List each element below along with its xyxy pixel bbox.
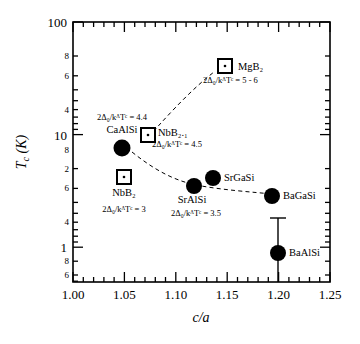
marker-filled-circle <box>186 178 202 194</box>
x-tick-label: 1.25 <box>319 287 342 302</box>
x-tick-label: 1.15 <box>216 287 239 302</box>
data-point-SrGaSi[interactable]: SrGaSi <box>205 170 254 186</box>
y-tick-labels: 100 10 1 8 6 4 2 8 6 4 8 6 <box>48 15 70 280</box>
gap-ratio-label: 2Δ₀/kᴬTᶜ = 3 <box>102 204 146 214</box>
gap-ratio-label: 2Δ₀/kᴬTᶜ = 5 - 6 <box>203 75 258 85</box>
data-point-MgB2[interactable]: MgB₂ 2Δ₀/kᴬTᶜ = 5 - 6 <box>203 59 264 85</box>
data-point-label: NbB₂.₁ <box>158 127 188 138</box>
marker-filled-circle <box>264 188 280 204</box>
y-minor-tick-label: 8 <box>65 256 70 266</box>
y-minor-tick-label: 6 <box>65 270 70 280</box>
y-minor-tick-label: 2 <box>65 164 70 174</box>
marker-center-dot <box>224 65 227 68</box>
data-point-label: MgB₂ <box>238 61 264 72</box>
y-minor-tick-label: 8 <box>65 145 70 155</box>
data-point-label: NbB₂ <box>112 187 136 198</box>
data-point-label: SrGaSi <box>224 172 254 183</box>
plot-frame <box>73 22 330 282</box>
marker-filled-circle <box>205 170 221 186</box>
y-minor-tick-label: 4 <box>65 105 70 115</box>
data-point-NbB2.1[interactable]: NbB₂.₁ 2Δ₀/kᴬTᶜ = 4.5 <box>141 127 202 149</box>
marker-filled-circle <box>114 140 131 157</box>
data-point-BaAlSi[interactable]: BaAlSi <box>270 218 320 282</box>
axis-frame <box>73 22 330 282</box>
x-tick-labels: 1.00 1.05 1.10 1.15 1.20 1.25 <box>62 287 342 302</box>
y-tick-label: 100 <box>48 15 68 30</box>
data-point-label: SrAlSi <box>178 194 207 205</box>
y-axis-title: Tc (K) <box>14 134 31 169</box>
data-point-NbB2[interactable]: NbB₂ 2Δ₀/kᴬTᶜ = 3 <box>102 170 146 214</box>
marker-filled-circle <box>270 245 286 261</box>
data-points: MgB₂ 2Δ₀/kᴬTᶜ = 5 - 6 NbB₂.₁ 2Δ₀/kᴬTᶜ = … <box>97 59 320 282</box>
y-tick-label: 10 <box>54 128 67 143</box>
marker-center-dot <box>147 134 150 137</box>
gap-ratio-label: 2Δ₀/kᴬTᶜ = 3.5 <box>171 208 221 218</box>
y-minor-tick-label: 8 <box>65 51 70 61</box>
x-axis-ticks <box>73 22 330 282</box>
y-minor-tick-label: 6 <box>65 183 70 193</box>
x-tick-label: 1.10 <box>164 287 187 302</box>
x-tick-label: 1.20 <box>267 287 290 302</box>
x-tick-label: 1.00 <box>62 287 85 302</box>
data-point-BaGaSi[interactable]: BaGaSi <box>264 188 316 204</box>
y-minor-tick-label: 6 <box>65 71 70 81</box>
y-minor-tick-label: 4 <box>65 217 70 227</box>
y-axis-ticks <box>73 22 330 281</box>
y-tick-label: 1 <box>61 240 68 255</box>
figure-panel: 1.00 1.05 1.10 1.15 1.20 1.25 100 10 1 8… <box>0 0 360 344</box>
data-point-label: BaGaSi <box>283 190 316 201</box>
gap-ratio-label: 2Δ₀/kᴬTᶜ = 4.5 <box>152 139 202 149</box>
gap-ratio-label: 2Δ₀/kᴬTᶜ = 4.4 <box>97 112 148 122</box>
tc-vs-ca-scatter-chart: 1.00 1.05 1.10 1.15 1.20 1.25 100 10 1 8… <box>0 0 360 344</box>
marker-center-dot <box>123 176 126 179</box>
x-axis-title: c/a <box>192 310 209 325</box>
x-tick-label: 1.05 <box>113 287 136 302</box>
data-point-label: CaAlSi <box>107 124 138 135</box>
y-axis-title-unit: (K) <box>14 134 30 157</box>
data-point-label: BaAlSi <box>289 247 320 258</box>
